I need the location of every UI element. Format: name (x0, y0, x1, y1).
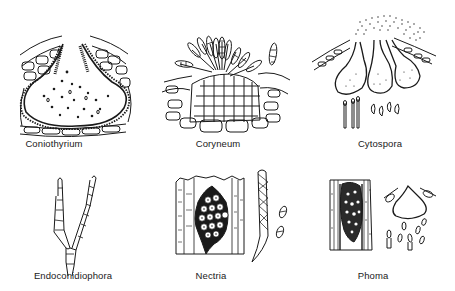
label-coniothyrium: Coniothyrium (25, 138, 82, 149)
label-phoma: Phoma (358, 270, 389, 281)
cytospora-illustration (300, 0, 455, 150)
panel-coniothyrium: Coniothyrium (0, 0, 150, 150)
coryneum-illustration (150, 0, 300, 150)
label-endoconidiophora: Endoconidiophora (34, 270, 112, 281)
label-coryneum: Coryneum (196, 138, 241, 149)
label-cytospora: Cytospora (358, 138, 402, 149)
panel-endoconidiophora: Endoconidiophora (0, 150, 150, 291)
label-nectria: Nectria (196, 270, 227, 281)
panel-coryneum: Coryneum (150, 0, 300, 150)
panel-cytospora: Cytospora (300, 0, 455, 150)
panel-phoma: Phoma (300, 150, 455, 291)
panel-nectria: Nectria (150, 150, 300, 291)
coniothyrium-illustration (0, 0, 150, 150)
